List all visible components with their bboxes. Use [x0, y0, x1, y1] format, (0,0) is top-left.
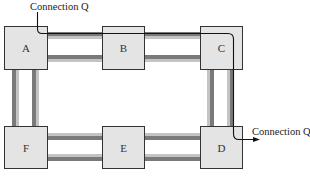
- link-e-f: [48, 133, 102, 161]
- link-c-d: [207, 70, 234, 126]
- link-d-e: [145, 133, 200, 161]
- node-e: E: [103, 127, 145, 169]
- node-d-label: D: [218, 142, 226, 154]
- ring-network-diagram: A B C F E D Connection Q Connection Q: [0, 0, 310, 176]
- node-e-label: E: [120, 142, 127, 154]
- connection-q-start-label: Connection Q: [30, 1, 89, 12]
- link-a-b: [48, 32, 102, 62]
- link-b-c: [145, 32, 200, 62]
- link-f-a: [12, 70, 39, 126]
- connection-q-arrowhead: [253, 137, 260, 142]
- node-f: F: [5, 127, 48, 169]
- connection-q-end-label: Connection Q: [252, 126, 310, 137]
- node-c-label: C: [218, 42, 225, 54]
- node-f-label: F: [23, 142, 29, 154]
- node-b-label: B: [120, 42, 127, 54]
- node-a-label: A: [22, 42, 30, 54]
- node-d: D: [201, 127, 243, 169]
